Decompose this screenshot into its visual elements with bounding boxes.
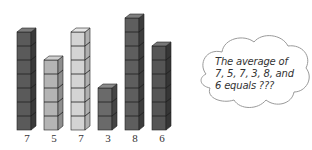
cloud-line-2: 7, 5, 7, 3, 8, and: [215, 68, 305, 80]
cloud-line-3: 6 equals ???: [215, 80, 305, 92]
bar-label-6: 6: [152, 132, 172, 144]
bar-label-3: 7: [71, 132, 91, 144]
bar-label-5: 8: [125, 132, 145, 144]
cloud-text: The average of 7, 5, 7, 3, 8, and 6 equa…: [215, 56, 305, 92]
bar-label-1: 7: [17, 132, 37, 144]
cloud-line-1: The average of: [215, 56, 305, 68]
bar-label-4: 3: [98, 132, 118, 144]
bar-label-2: 5: [44, 132, 64, 144]
average-diagram: The average of 7, 5, 7, 3, 8, and 6 equa…: [0, 0, 312, 150]
